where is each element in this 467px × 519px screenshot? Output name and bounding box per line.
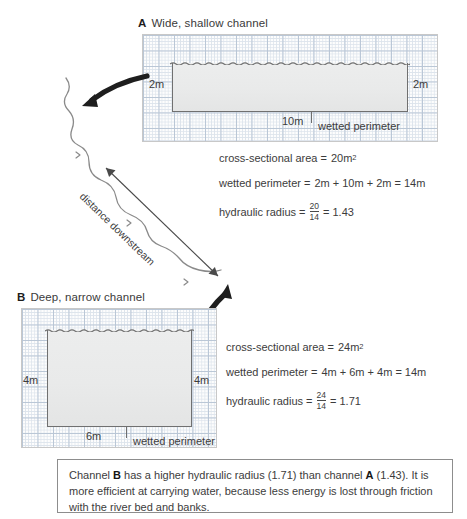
panel-b-heading: BDeep, narrow channel [17,291,145,303]
panel-b-radius-label: hydraulic radius = [226,395,313,407]
panel-b-radius-denominator: 14 [317,400,326,410]
panel-b-width-label: 6m [86,430,101,442]
panel-b-channel-cross-section [47,330,192,427]
distance-downstream-label: distance downstream [78,190,158,268]
panel-a-radius-numerator: 20 [310,202,319,211]
panel-a-radius-denominator: 14 [310,211,319,221]
conclusion-text: Channel B has a higher hydraulic radius … [69,468,442,516]
panel-a-title: Wide, shallow channel [151,17,268,29]
conclusion-bold-a: A [366,469,374,481]
panel-a-perimeter-formula: wetted perimeter = 2m + 10m + 2m = 14m [219,177,425,189]
diagram-canvas: AWide, shallow channel 2m 2m 10m wetted … [0,0,467,519]
panel-a-wetted-perimeter-label: wetted perimeter [318,120,400,132]
conclusion-bold-b: B [113,469,121,481]
conclusion-part-1: Channel [69,469,113,481]
panel-b-title: Deep, narrow channel [30,291,145,303]
panel-b-area-value: 24m [338,341,359,353]
panel-a-right-depth-label: 2m [413,78,428,90]
panel-b-left-depth-label: 4m [23,374,38,386]
panel-a-perimeter-label: wetted perimeter = [219,177,310,189]
panel-b-radius-numerator: 24 [317,391,326,400]
panel-a-radius-value: = 1.43 [323,206,354,218]
panel-a-radius-formula: hydraulic radius = 20 14 = 1.43 [219,202,425,221]
panel-a-area-formula: cross-sectional area = 20m2 [219,152,425,164]
panel-b-wetted-perimeter-leader [126,427,127,438]
panel-b-radius-fraction: 24 14 [317,391,326,410]
panel-b-right-depth-label: 4m [194,374,209,386]
panel-b-perimeter-label: wetted perimeter = [226,366,317,378]
panel-a-heading: AWide, shallow channel [138,17,268,29]
panel-b-area-label: cross-sectional area = [226,341,334,353]
panel-a-radius-fraction: 20 14 [310,202,319,221]
panel-a-width-label: 10m [282,115,303,127]
panel-a-area-label: cross-sectional area = [219,152,327,164]
panel-a-water-surface [170,61,410,65]
panel-a-left-depth-label: 2m [149,78,164,90]
conclusion-part-2: has a higher hydraulic radius (1.71) tha… [121,469,366,481]
panel-b-radius-value: = 1.71 [330,395,361,407]
panel-a-area-value: 20m [331,152,352,164]
panel-a-channel-cross-section [172,63,408,112]
panel-b-perimeter-value: 4m + 6m + 4m = 14m [321,366,426,378]
panel-a-formulas: cross-sectional area = 20m2 wetted perim… [219,152,425,221]
panel-a-wetted-perimeter-leader [311,112,312,123]
panel-a-letter: A [138,17,146,29]
panel-b-letter: B [17,291,25,303]
panel-a-perimeter-value: 2m + 10m + 2m = 14m [314,177,425,189]
panel-b-formulas: cross-sectional area = 24m2 wetted perim… [226,341,426,410]
panel-b-water-surface [45,328,194,332]
panel-b-wetted-perimeter-label: wetted perimeter [133,435,215,447]
panel-b-radius-formula: hydraulic radius = 24 14 = 1.71 [226,391,426,410]
panel-b-area-formula: cross-sectional area = 24m2 [226,341,426,353]
panel-b-perimeter-formula: wetted perimeter = 4m + 6m + 4m = 14m [226,366,426,378]
panel-a-radius-label: hydraulic radius = [219,206,306,218]
conclusion-box: Channel B has a higher hydraulic radius … [57,459,453,513]
